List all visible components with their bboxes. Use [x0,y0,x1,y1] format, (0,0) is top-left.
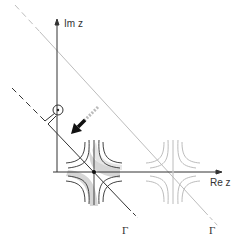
imaginary-axis-label: Im z [64,18,83,29]
original-contour-label: Γ [209,224,215,236]
deformation-arrow-icon [71,107,98,134]
deformed-contour [12,88,138,218]
original-contour [15,5,218,226]
secondary-saddle-point [172,171,174,173]
real-axis-label: Re z [210,177,231,188]
complex-plane-diagram: Im z Re z Γ Γ [0,0,247,242]
active-saddle-point [92,170,96,174]
branch-point-dot [57,109,59,111]
deformed-contour-label: Γ [122,224,128,236]
axes [53,19,222,174]
